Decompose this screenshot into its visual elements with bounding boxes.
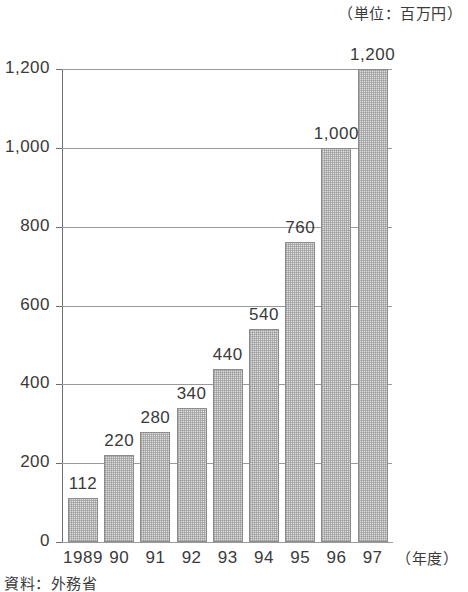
bar-value-label: 440 bbox=[198, 345, 258, 365]
bar-value-label: 540 bbox=[234, 305, 294, 325]
bar bbox=[68, 498, 98, 542]
y-axis-tick bbox=[56, 227, 62, 228]
gridline bbox=[62, 69, 392, 70]
bar-value-label: 1,000 bbox=[306, 124, 366, 144]
x-axis-title: （年度） bbox=[396, 547, 458, 568]
x-axis-label: 90 bbox=[99, 548, 139, 568]
unit-annotation: （単位：百万円） bbox=[338, 2, 462, 23]
y-axis-label: 200 bbox=[0, 452, 50, 472]
x-axis-line bbox=[62, 542, 393, 543]
y-axis-tick bbox=[56, 69, 62, 70]
y-axis-label: 600 bbox=[0, 295, 50, 315]
y-axis-label: 400 bbox=[0, 373, 50, 393]
bar-value-label: 220 bbox=[89, 431, 149, 451]
bar-chart: （単位：百万円） （年度） 資料：外務省 02004006008001,0001… bbox=[0, 0, 468, 592]
y-axis-tick bbox=[56, 384, 62, 385]
y-axis-label: 800 bbox=[0, 216, 50, 236]
x-axis-label: 92 bbox=[172, 548, 212, 568]
x-axis-label: 94 bbox=[244, 548, 284, 568]
y-axis-label: 1,200 bbox=[0, 58, 50, 78]
bar-value-label: 112 bbox=[53, 474, 113, 494]
bar bbox=[177, 408, 207, 542]
bar bbox=[104, 455, 134, 542]
y-axis-label: 0 bbox=[0, 531, 50, 551]
x-axis-label: 96 bbox=[316, 548, 356, 568]
y-axis-tick bbox=[56, 148, 62, 149]
x-axis-label: 97 bbox=[353, 548, 393, 568]
y-axis-tick bbox=[56, 463, 62, 464]
bar bbox=[285, 242, 315, 542]
source-note: 資料：外務省 bbox=[4, 572, 97, 592]
bar bbox=[321, 148, 351, 542]
bar-value-label: 340 bbox=[162, 384, 222, 404]
bar-value-label: 1,200 bbox=[343, 45, 403, 65]
x-axis-label: 93 bbox=[208, 548, 248, 568]
y-axis-label: 1,000 bbox=[0, 137, 50, 157]
x-axis-label: 91 bbox=[135, 548, 175, 568]
y-axis-tick bbox=[56, 306, 62, 307]
y-axis-tick bbox=[56, 542, 62, 543]
bar-value-label: 760 bbox=[270, 218, 330, 238]
x-axis-label: 95 bbox=[280, 548, 320, 568]
bar-value-label: 280 bbox=[125, 408, 185, 428]
